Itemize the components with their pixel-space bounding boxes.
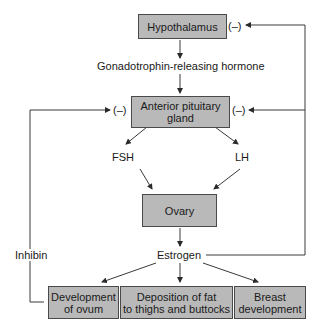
- node-label: to thighs and buttocks: [123, 303, 230, 315]
- node-anterior-pituitary: Anterior pituitary gland: [131, 96, 230, 128]
- node-label: Development: [51, 291, 116, 303]
- node-label: Hypothalamus: [147, 21, 217, 33]
- negative-feedback-pituitary-right: (–): [232, 104, 245, 116]
- node-label: Anterior pituitary: [140, 100, 220, 112]
- label-estrogen: Estrogen: [157, 249, 201, 261]
- node-label: gland: [167, 112, 194, 124]
- node-label: of ovum: [64, 303, 103, 315]
- node-label: Ovary: [165, 205, 194, 217]
- label-gnrh: Gonadotrophin-releasing hormone: [97, 60, 265, 72]
- negative-feedback-hypothalamus: (–): [228, 20, 241, 32]
- label-fsh: FSH: [112, 151, 134, 163]
- node-label: Breast: [254, 291, 286, 303]
- node-deposition-of-fat: Deposition of fat to thighs and buttocks: [120, 286, 233, 319]
- node-development-of-ovum: Development of ovum: [48, 286, 119, 319]
- node-hypothalamus: Hypothalamus: [138, 14, 227, 39]
- node-ovary: Ovary: [142, 194, 217, 227]
- label-inhibin: Inhibin: [15, 249, 47, 261]
- negative-feedback-pituitary-left: (–): [113, 104, 126, 116]
- connector-arrows: [0, 0, 321, 332]
- node-label: Deposition of fat: [137, 291, 217, 303]
- node-breast-development: Breast development: [234, 286, 306, 319]
- label-lh: LH: [235, 151, 249, 163]
- node-label: development: [239, 303, 302, 315]
